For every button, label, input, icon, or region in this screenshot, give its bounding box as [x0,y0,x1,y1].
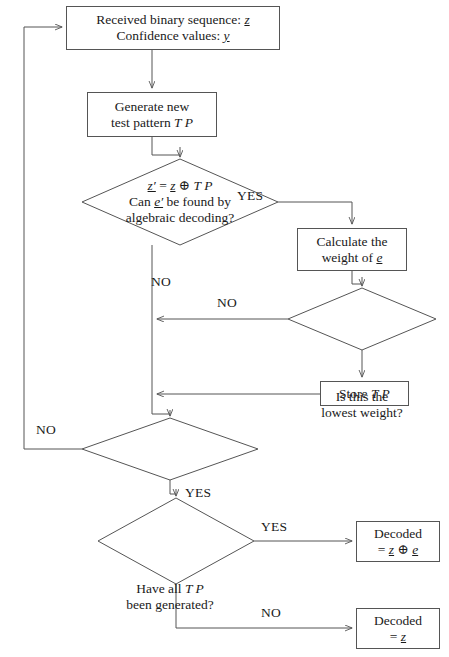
node-received-line2: Confidence values: y [116,28,229,44]
node-decoded-z: Decoded = z [356,608,440,649]
edge-label-yes-all-tp: YES [185,485,211,501]
node-calculate-line2: weight of e [322,250,383,266]
variable-e: e [376,250,382,265]
node-decision-lowest-weight: Is this the lowest weight? [288,374,436,436]
variable-tp: T P [185,581,204,596]
node-decision-algebraic: z′ = z ⊕ T P Can e′ be found by algebrai… [82,159,278,245]
node-generate-line1: Generate new [115,99,190,115]
flowchart-canvas: Received binary sequence: z Confidence v… [0,0,449,657]
variable-e-prime: e′ [154,194,163,209]
node-decoded-xor-line1: Decoded [374,526,422,542]
variable-tp: T P [194,178,213,193]
decision-lowest-line2: lowest weight? [321,405,402,421]
node-received-sequence: Received binary sequence: z Confidence v… [66,6,280,50]
xor-operator: ⊕ [179,178,190,193]
edge-label-no-lowest-weight: NO [217,295,237,311]
diamond-all-tp-shape [82,418,258,480]
node-generate-line2: test pattern T P [111,115,193,131]
decision-all-tp-line1: Have all T P [136,581,204,597]
variable-e: e [412,542,418,557]
decision-lowest-line1: Is this the [336,389,389,405]
node-generate-test-pattern: Generate new test pattern T P [87,92,217,137]
edge-label-yes-error-stored: YES [261,519,287,535]
variable-z: z [244,12,249,27]
variable-tp: T P [174,115,193,130]
node-received-line1: Received binary sequence: z [96,12,249,28]
node-decision-all-tp-generated: Have all T P been generated? [82,566,258,628]
node-decoded-xor: Decoded = z ⊕ e [356,521,440,562]
node-calculate-line1: Calculate the [317,234,388,250]
edge-label-no-error-stored: NO [261,605,281,621]
decision-algebraic-line2: Can e′ be found by [129,194,231,210]
node-calculate-weight: Calculate the weight of e [297,228,407,271]
variable-y: y [224,28,230,43]
variable-z: z [389,542,394,557]
edge-label-no-all-tp: NO [36,422,56,438]
node-decoded-xor-line2: = z ⊕ e [378,542,418,558]
variable-z: z [170,178,175,193]
node-decoded-z-line2: = z [390,629,406,645]
xor-operator: ⊕ [397,542,408,557]
variable-z: z [401,629,406,644]
decision-algebraic-line1: z′ = z ⊕ T P [148,178,213,194]
decision-algebraic-line3: algebraic decoding? [126,210,234,226]
edge-label-no-algebraic: NO [151,274,171,290]
variable-z-prime: z′ [148,178,156,193]
node-decoded-z-line1: Decoded [374,613,422,629]
diamond-lowest-shape [288,288,436,350]
decision-all-tp-line2: been generated? [126,597,213,613]
